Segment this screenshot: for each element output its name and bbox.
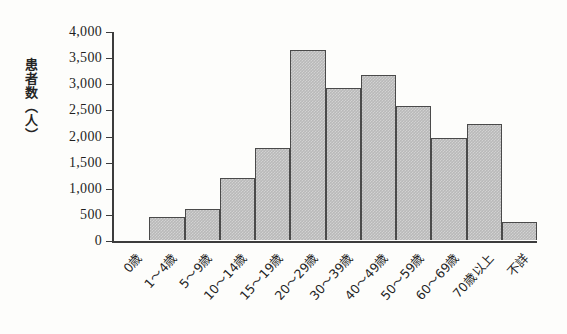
bar-slot <box>114 31 149 240</box>
x-axis-labels: 0歳1〜4歳5〜9歳10〜14歳15〜19歳20〜29歳30〜39歳40〜49歳… <box>112 248 537 334</box>
chart-container: 患者数（人） 05001,0001,5002,0002,5003,0003,50… <box>0 0 567 334</box>
y-tick-mark <box>106 110 113 111</box>
bar-slot <box>220 31 255 240</box>
y-tick-label: 1,000 <box>69 181 102 197</box>
bar-slot <box>185 31 220 240</box>
y-tick-label: 2,000 <box>69 129 102 145</box>
y-tick-label: 500 <box>80 207 102 223</box>
y-tick-mark <box>106 163 113 164</box>
y-tick-label: 3,500 <box>69 50 102 66</box>
y-tick-mark <box>106 189 113 190</box>
y-tick-mark <box>106 241 113 242</box>
plot-area: 05001,0001,5002,0002,5003,0003,5004,000 <box>112 32 537 242</box>
y-tick-mark <box>106 32 113 33</box>
y-tick-mark <box>106 215 113 216</box>
bar-slot <box>149 31 184 240</box>
y-tick-label: 4,000 <box>69 24 102 40</box>
bar-series <box>114 31 537 240</box>
y-tick-label: 0 <box>95 233 102 249</box>
y-tick-mark <box>106 137 113 138</box>
y-axis-title: 患者数（人） <box>12 58 38 142</box>
y-tick-label: 3,000 <box>69 76 102 92</box>
y-tick-label: 1,500 <box>69 155 102 171</box>
y-tick-mark <box>106 58 113 59</box>
y-tick-label: 2,500 <box>69 102 102 118</box>
y-tick-mark <box>106 84 113 85</box>
